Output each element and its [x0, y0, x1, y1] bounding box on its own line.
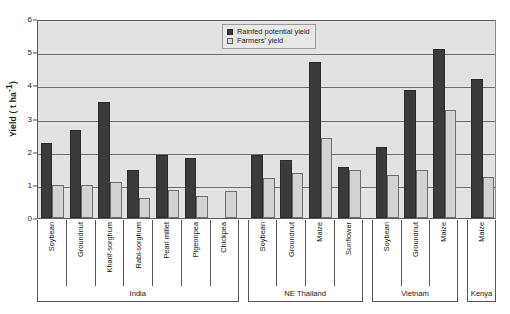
chart-figure: Yield ( t ha-1) 0123456 Rainfed potentia… — [0, 0, 510, 314]
bar-farmers — [196, 196, 208, 218]
y-axis-tick-label: 6 — [28, 16, 32, 24]
y-axis-tick-label: 3 — [28, 116, 32, 124]
x-axis-category-label: Maize — [305, 220, 334, 286]
y-axis-tick-label: 0 — [28, 215, 32, 223]
bar-rainfed — [338, 167, 350, 218]
legend-item-rainfed-potential-yield: Rainfed potential yield — [227, 28, 310, 35]
x-axis-category-label: Soybean — [372, 220, 401, 286]
y-axis-tick-label: 5 — [28, 49, 32, 57]
x-axis-group-label: India — [37, 286, 239, 302]
bar-rainfed — [185, 158, 197, 218]
bar-farmers — [168, 190, 180, 218]
x-axis-category-labels: SoybeanGroundnutKharif-sorghumRabi-sorgh… — [37, 220, 496, 286]
category-label-text: Kharif-sorghum — [106, 222, 113, 273]
y-axis-title-close: ) — [8, 81, 18, 84]
category-label-text: Maize — [478, 222, 485, 242]
bar-farmers — [349, 170, 361, 218]
group-label-text: India — [130, 289, 146, 298]
category-label-text: Soybean — [259, 222, 266, 251]
bar-rainfed — [70, 130, 82, 218]
x-axis-category-label: Maize — [429, 220, 458, 286]
bar-farmers — [416, 170, 428, 218]
bar-rainfed — [309, 62, 321, 218]
category-label-text: Maize — [316, 222, 323, 242]
x-axis-group-labels: IndiaNE ThailandVietnamKenya — [37, 286, 496, 308]
bar-farmers — [387, 175, 399, 218]
legend-swatch-icon-rainfed — [227, 29, 233, 35]
bar-farmers — [81, 185, 93, 218]
y-axis-tick-label: 4 — [28, 82, 32, 90]
bar-rainfed — [433, 49, 445, 218]
x-axis-category-label: Groundnut — [276, 220, 305, 286]
category-label-text: Pigeonpea — [192, 222, 199, 257]
category-label-text: Chickpea — [220, 222, 227, 253]
bar-farmers — [321, 138, 333, 218]
group-label-text: Kenya — [471, 289, 493, 298]
group-label-text: Vietnam — [401, 289, 429, 298]
y-axis-ticks: 0123456 — [20, 20, 37, 219]
category-label-text: Pearl millet — [163, 222, 170, 259]
bar-farmers — [225, 191, 237, 218]
x-axis-category-label: Pearl millet — [152, 220, 181, 286]
x-axis-category-label: Pigeonpea — [181, 220, 210, 286]
bar-rainfed — [98, 102, 110, 218]
x-axis-category-label: Soybean — [37, 220, 66, 286]
bar-farmers — [483, 177, 495, 218]
legend-label-farmers: Farmers' yield — [237, 37, 283, 44]
x-axis-category-label: Maize — [467, 220, 496, 286]
bar-rainfed — [404, 90, 416, 218]
group-label-text: NE Thailand — [284, 289, 326, 298]
y-axis-title: Yield ( t ha-1) — [0, 0, 22, 219]
bar-farmers — [263, 178, 275, 218]
legend-item-farmers-yield: Farmers' yield — [227, 37, 310, 44]
bar-rainfed — [41, 143, 53, 218]
plot-area — [37, 20, 496, 219]
category-label-text: Groundnut — [412, 222, 419, 257]
category-label-text: Sunflower — [345, 222, 352, 255]
bar-rainfed — [156, 155, 168, 218]
bar-rainfed — [251, 155, 263, 218]
x-axis-category-label: Rabi-sorghum — [123, 220, 152, 286]
y-axis-title-superscript: -1 — [4, 85, 14, 93]
bar-farmers — [110, 182, 122, 218]
category-label-text: Groundnut — [77, 222, 84, 257]
bar-rainfed — [280, 160, 292, 218]
x-axis-category-label: Groundnut — [401, 220, 430, 286]
legend: Rainfed potential yield Farmers' yield — [222, 24, 316, 49]
x-axis-group-label: NE Thailand — [248, 286, 363, 302]
category-label-text: Maize — [440, 222, 447, 242]
y-axis-title-base: Yield ( t ha — [8, 92, 18, 137]
x-axis-category-label: Kharif-sorghum — [95, 220, 124, 286]
y-axis-tick-label: 1 — [28, 182, 32, 190]
bar-farmers — [292, 173, 304, 218]
x-axis-group-label: Vietnam — [372, 286, 458, 302]
category-label-text: Rabi-sorghum — [135, 222, 142, 268]
legend-swatch-icon-farmers — [227, 38, 233, 44]
bar-rainfed — [127, 170, 139, 218]
bar-farmers — [139, 198, 151, 218]
bar-rainfed — [471, 79, 483, 218]
x-axis-category-label: Sunflower — [334, 220, 363, 286]
bar-series-container — [38, 21, 495, 218]
bar-farmers — [52, 185, 64, 218]
y-axis-tick-label: 2 — [28, 149, 32, 157]
legend-label-rainfed: Rainfed potential yield — [237, 28, 310, 35]
x-axis-category-label: Chickpea — [210, 220, 239, 286]
x-axis-group-label: Kenya — [467, 286, 496, 302]
x-axis-category-label: Groundnut — [66, 220, 95, 286]
bar-rainfed — [376, 147, 388, 218]
bar-farmers — [445, 110, 457, 218]
category-label-text: Groundnut — [288, 222, 295, 257]
category-label-text: Soybean — [383, 222, 390, 251]
category-label-text: Soybean — [48, 222, 55, 251]
x-axis-category-label: Soybean — [248, 220, 277, 286]
